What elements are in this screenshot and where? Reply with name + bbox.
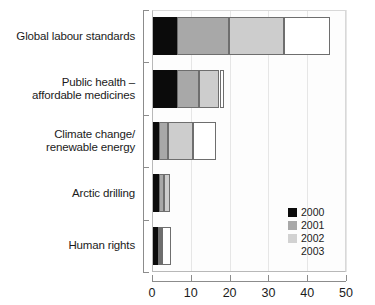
bar-segment-2003 xyxy=(284,17,330,55)
y-axis-tick xyxy=(143,62,149,63)
x-axis-tick-30 xyxy=(268,275,269,281)
category-label-1: Public health –affordable medicines xyxy=(0,76,135,102)
category-label-line: Human rights xyxy=(0,239,135,252)
category-label-4: Human rights xyxy=(0,239,135,252)
category-label-line: renewable energy xyxy=(0,141,135,154)
x-axis-label-50: 50 xyxy=(329,286,363,300)
legend-swatch-icon-2003 xyxy=(288,247,297,256)
stacked-bar-chart: Global labour standardsPublic health –af… xyxy=(0,0,375,305)
category-label-2: Climate change/renewable energy xyxy=(0,128,135,154)
x-axis-tick-50 xyxy=(346,275,347,281)
legend-swatch-icon-2001 xyxy=(288,221,297,230)
bar-row xyxy=(152,122,346,160)
x-axis-label-40: 40 xyxy=(290,286,324,300)
bar-segment-2001 xyxy=(177,17,229,55)
bar-segment-2001 xyxy=(159,122,168,160)
bar-row xyxy=(152,17,346,55)
legend: 2000 2001 2002 2003 xyxy=(288,207,350,259)
x-axis-tick-10 xyxy=(191,275,192,281)
bar-row xyxy=(152,70,346,108)
x-axis-line xyxy=(152,281,346,282)
legend-label-2000: 2000 xyxy=(301,207,324,218)
category-label-line: Climate change/ xyxy=(0,128,135,141)
bar-segment-2000 xyxy=(152,70,177,108)
category-label-line: Public health – xyxy=(0,76,135,89)
bar-segment-2000 xyxy=(152,174,159,212)
bar-segment-2000 xyxy=(152,17,177,55)
category-label-line: Global labour standards xyxy=(0,30,135,43)
legend-label-2001: 2001 xyxy=(301,220,324,231)
y-axis-tick xyxy=(143,167,149,168)
category-label-line: affordable medicines xyxy=(0,89,135,102)
category-label-0: Global labour standards xyxy=(0,30,135,43)
legend-label-2003: 2003 xyxy=(301,246,324,257)
legend-label-2002: 2002 xyxy=(301,233,324,244)
y-axis-tick xyxy=(143,10,149,11)
bar-segment-2000 xyxy=(152,122,159,160)
x-axis-label-10: 10 xyxy=(174,286,208,300)
category-axis-labels: Global labour standardsPublic health –af… xyxy=(0,10,135,272)
y-axis-line xyxy=(143,10,144,272)
legend-swatch-icon-2000 xyxy=(288,208,297,217)
legend-item-2001: 2001 xyxy=(288,220,350,232)
category-label-3: Arctic drilling xyxy=(0,187,135,200)
y-axis-tick xyxy=(143,272,149,273)
bar-segment-2003 xyxy=(193,122,216,160)
category-label-line: Arctic drilling xyxy=(0,187,135,200)
x-axis-tick-20 xyxy=(230,275,231,281)
x-axis-label-0: 0 xyxy=(135,286,169,300)
legend-item-2003: 2003 xyxy=(288,246,350,258)
bar-segment-2002 xyxy=(168,122,193,160)
bar-segment-2003 xyxy=(162,227,171,265)
y-axis-tick xyxy=(143,220,149,221)
bar-segment-2002 xyxy=(229,17,284,55)
legend-item-2000: 2000 xyxy=(288,207,350,219)
legend-item-2002: 2002 xyxy=(288,233,350,245)
y-axis-tick xyxy=(143,115,149,116)
legend-swatch-icon-2002 xyxy=(288,234,297,243)
bar-segment-2002 xyxy=(164,174,170,212)
x-axis-tick-40 xyxy=(307,275,308,281)
bar-segment-2001 xyxy=(177,70,198,108)
x-axis-tick-0 xyxy=(152,275,153,281)
x-axis-label-20: 20 xyxy=(213,286,247,300)
x-axis-label-30: 30 xyxy=(251,286,285,300)
bar-segment-2002 xyxy=(199,70,220,108)
bar-segment-2003 xyxy=(220,70,225,108)
